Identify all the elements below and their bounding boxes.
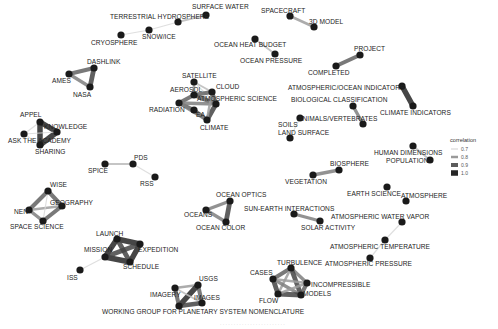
node-label-knowledge: KNOWLEDGE xyxy=(44,123,88,130)
edge-atmospheric_water_vapor-atmospheric_temperature xyxy=(385,222,402,240)
node-incompressible xyxy=(303,279,310,286)
node-label-appel: APPEL xyxy=(20,111,42,118)
node-label-nasa: NASA xyxy=(73,91,92,98)
node-label-iss: ISS xyxy=(67,274,78,281)
edge-sun_earth_interactions-solar_activity xyxy=(294,214,320,221)
legend-label-1.0: 1.0 xyxy=(461,170,468,176)
node-label-atmosphere: ATMOSPHERE xyxy=(401,192,448,199)
node-biosphere xyxy=(335,166,342,173)
edge-pds-rss xyxy=(133,164,155,177)
node-label-3d_model: 3D MODEL xyxy=(309,18,343,25)
node-label-imagery: IMAGERY xyxy=(150,291,181,298)
node-label-land_surface: LAND SURFACE xyxy=(278,129,330,136)
node-label-space_science: SPACE SCIENCE xyxy=(10,223,64,230)
legend-title: correlation xyxy=(450,137,476,143)
node-label-usgs: USGS xyxy=(199,275,218,282)
legend-swatch-0.9 xyxy=(451,163,458,167)
node-label-mission: MISSION xyxy=(84,246,112,253)
node-label-atmospheric_science: ATMOSPHERIC SCIENCE xyxy=(197,95,278,102)
node-ocean_optics xyxy=(226,197,233,204)
node-label-aerosol: AEROSOL xyxy=(170,86,203,93)
edge-terrestrial_hydrosphere-snow_ice xyxy=(149,22,178,30)
legend-label-0.8: 0.8 xyxy=(461,154,468,160)
node-label-cases: CASES xyxy=(250,269,273,276)
node-label-ocean_pressure: OCEAN PRESSURE xyxy=(240,57,303,64)
node-label-ea: EA xyxy=(196,111,205,118)
node-label-atmospheric_water_vapor: ATMOSPHERIC WATER VAPOR xyxy=(331,213,430,220)
node-label-soils: SOILS xyxy=(278,121,298,128)
node-dashlink xyxy=(90,64,97,71)
node-label-atmospheric_temperature: ATMOSPHERIC TEMPERATURE xyxy=(330,243,431,250)
legend-swatch-0.7 xyxy=(451,148,458,149)
edge-dashlink-ames xyxy=(69,68,94,74)
node-label-surface_water: SURFACE WATER xyxy=(192,3,249,10)
node-label-radiation: RADIATION xyxy=(149,106,185,113)
node-label-solar_activity: SOLAR ACTIVITY xyxy=(301,224,356,231)
node-label-atmospheric_pressure: ATMOSPHERIC PRESSURE xyxy=(325,260,413,267)
node-label-launch: LAUNCH xyxy=(96,230,124,237)
node-satellite xyxy=(190,78,197,85)
node-label-schedule: SCHEDULE xyxy=(123,263,160,270)
node-label-wise: WISE xyxy=(50,181,68,188)
node-label-dashlink: DASHLINK xyxy=(87,58,121,65)
node-label-geography: GEOGRAPHY xyxy=(50,199,94,206)
node-pds xyxy=(129,160,136,167)
node-label-completed: COMPLETED xyxy=(308,69,350,76)
node-label-biological_classification: BIOLOGICAL CLASSIFICATION xyxy=(291,96,388,103)
node-label-images: IMAGES xyxy=(194,294,220,301)
node-label-cryosphere: CRYOSPHERE xyxy=(91,39,138,46)
node-label-vegetation: VEGETATION xyxy=(285,178,327,185)
node-label-sharing: SHARING xyxy=(35,148,65,155)
node-project xyxy=(356,51,363,58)
node-appel xyxy=(36,118,43,125)
node-label-flow: FLOW xyxy=(259,297,279,304)
node-label-terrestrial_hydrosphere: TERRESTRIAL HYDROSPHERE xyxy=(110,13,210,20)
node-label-snow_ice: SNOW/ICE xyxy=(142,33,176,40)
node-mission xyxy=(101,253,108,260)
node-label-ocean_optics: OCEAN OPTICS xyxy=(216,191,267,198)
legend-label-0.7: 0.7 xyxy=(461,146,468,152)
node-label-spice: SPICE xyxy=(88,167,109,174)
node-label-animals_vertebrates: ANIMALS/VERTEBRATES xyxy=(298,115,378,122)
legend-swatch-0.8 xyxy=(451,156,458,159)
legend-entries: 0.70.80.91.0 xyxy=(451,146,468,176)
node-biological_classification xyxy=(349,102,356,109)
edge-ames-nasa xyxy=(69,74,90,87)
node-cases xyxy=(269,275,276,282)
node-label-ocean_color: OCEAN COLOR xyxy=(196,224,245,231)
node-label-incompressible: INCOMPRESSIBLE xyxy=(311,281,371,288)
node-usgs xyxy=(194,281,201,288)
node-label-pds: PDS xyxy=(134,154,148,161)
node-label-ask_the_academy: ASK THE ACADEMY xyxy=(8,137,71,144)
edge-mission-iss xyxy=(80,257,105,270)
node-nasa xyxy=(86,83,93,90)
node-label-earth_science: EARTH SCIENCE xyxy=(347,190,402,197)
node-label-models: MODELS xyxy=(303,290,332,297)
node-label-project: PROJECT xyxy=(354,45,385,52)
node-label-ames: AMES xyxy=(52,77,71,84)
node-label-biosphere: BIOSPHERE xyxy=(330,160,369,167)
legend-label-0.9: 0.9 xyxy=(461,162,468,168)
node-label-turbulence: TURBULENCE xyxy=(277,259,323,266)
node-iss xyxy=(76,266,83,273)
node-label-oceans: OCEANS xyxy=(184,211,213,218)
node-label-ocean_heat_budget: OCEAN HEAT BUDGET xyxy=(214,41,286,48)
node-label-climate_indicators: CLIMATE INDICATORS xyxy=(380,109,451,116)
node-cryosphere xyxy=(117,31,124,38)
node-label-satellite: SATELLITE xyxy=(182,72,217,79)
node-wise xyxy=(44,187,51,194)
labels-layer: SURFACE WATERTERRESTRIAL HYDROSPHERESNOW… xyxy=(8,3,451,315)
legend-swatch-1.0 xyxy=(451,170,458,176)
node-label-population: POPULATION xyxy=(386,157,429,164)
node-label-nen: NEN xyxy=(14,208,28,215)
node-label-climate: CLIMATE xyxy=(200,124,229,131)
node-label-rss: RSS xyxy=(140,180,154,187)
node-label-expedition: EXPEDITION xyxy=(138,246,179,253)
node-label-atmospheric_ocean_indicators: ATMOSPHERIC/OCEAN INDICATORS xyxy=(288,84,405,91)
edge-vegetation-biosphere xyxy=(313,170,339,175)
node-label-wgpsn: WORKING GROUP FOR PLANETARY SYSTEM NOMEN… xyxy=(102,308,305,315)
node-label-human_dimensions: HUMAN DIMENSIONS xyxy=(374,149,443,156)
node-label-cloud: CLOUD xyxy=(216,83,240,90)
caption: · · · · · · · · · · · · · · · · · · · · … xyxy=(220,322,285,327)
correlation-network-diagram: SURFACE WATERTERRESTRIAL HYDROSPHERESNOW… xyxy=(0,0,498,329)
